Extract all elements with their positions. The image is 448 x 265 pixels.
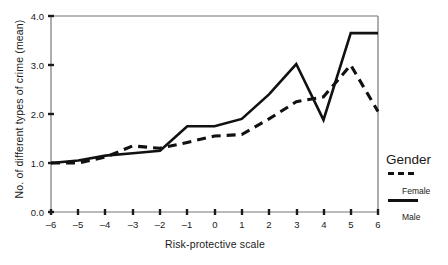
y-tick-label: 3.0 xyxy=(31,60,44,71)
legend-swatch-female xyxy=(388,172,414,175)
x-tick-label: –4 xyxy=(100,219,111,230)
data-series-group xyxy=(51,33,378,163)
y-axis-title: No. of different types of crime (mean) xyxy=(13,4,25,214)
x-tick-label: 2 xyxy=(266,219,271,230)
y-tick-label: 1.0 xyxy=(31,158,44,169)
y-tick-label: 4.0 xyxy=(31,11,44,22)
y-tick-label: 2.0 xyxy=(31,109,44,120)
legend-swatch-male xyxy=(388,199,418,202)
x-tick-label: –6 xyxy=(46,219,57,230)
x-tick-label: –5 xyxy=(73,219,84,230)
x-tick-label: –3 xyxy=(128,219,139,230)
x-tick-label: 5 xyxy=(348,219,353,230)
legend-label-female: Female xyxy=(402,186,430,196)
chart-figure: 4.0 3.0 2.0 1.0 0.0 –6 –5 –4 xyxy=(0,0,448,265)
legend-label-male: Male xyxy=(402,212,420,222)
line-chart-plot: 4.0 3.0 2.0 1.0 0.0 –6 –5 –4 xyxy=(0,0,448,265)
x-tick-label: 4 xyxy=(321,219,326,230)
y-axis-tick-labels: 4.0 3.0 2.0 1.0 0.0 xyxy=(31,11,44,218)
x-tick-label: 0 xyxy=(212,219,217,230)
x-tick-label: –1 xyxy=(182,219,193,230)
series-line-male xyxy=(51,33,378,163)
y-tick-label: 0.0 xyxy=(31,207,44,218)
x-tick-label: 3 xyxy=(294,219,299,230)
x-tick-label: –2 xyxy=(155,219,166,230)
x-axis-title: Risk-protective scale xyxy=(51,238,379,250)
x-axis-tick-labels: –6 –5 –4 –3 –2 –1 0 1 2 3 4 5 6 xyxy=(46,219,381,230)
plot-frame xyxy=(51,16,378,212)
x-tick-label: 1 xyxy=(239,219,244,230)
x-tick-label: 6 xyxy=(375,219,380,230)
series-line-female xyxy=(51,65,378,163)
legend-title: Gender xyxy=(386,152,431,167)
